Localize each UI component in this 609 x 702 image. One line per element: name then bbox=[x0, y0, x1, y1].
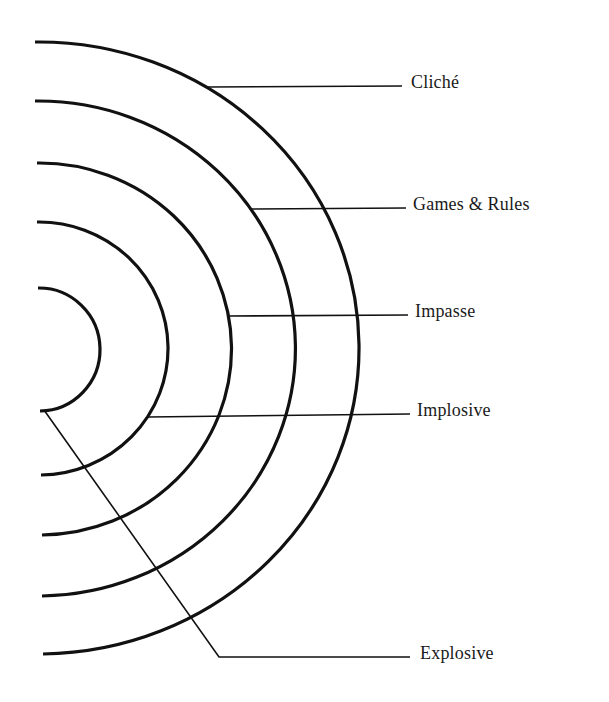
leader-line-clich bbox=[208, 86, 402, 87]
leader-line-explosive bbox=[44, 410, 410, 657]
second-arc bbox=[37, 222, 168, 475]
label-impasse: Impasse bbox=[415, 302, 475, 320]
leader-line-implosive bbox=[148, 414, 410, 417]
label-cliche: Cliché bbox=[411, 73, 459, 91]
innermost-arc bbox=[38, 288, 100, 411]
concentric-levels-diagram bbox=[0, 0, 609, 702]
label-implosive: Implosive bbox=[417, 401, 491, 419]
leader-line-games-rules bbox=[252, 208, 406, 209]
outermost-arc bbox=[35, 42, 359, 654]
leader-line-impasse bbox=[228, 315, 408, 316]
arc-group bbox=[35, 42, 359, 654]
third-arc bbox=[37, 163, 232, 535]
label-explosive: Explosive bbox=[420, 644, 494, 662]
label-games-and-rules: Games & Rules bbox=[413, 195, 530, 213]
fourth-arc bbox=[35, 101, 295, 596]
